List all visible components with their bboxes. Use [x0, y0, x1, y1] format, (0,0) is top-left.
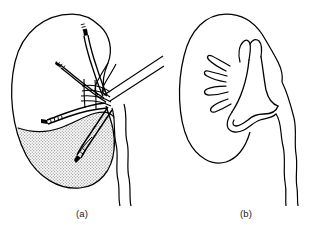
panel-a: (a) [0, 0, 164, 235]
stippled-inferior-segment [18, 112, 114, 188]
ureter-b [276, 82, 298, 206]
segmental-artery-mid-upper [55, 61, 106, 102]
caption-b: (b) [164, 208, 328, 220]
renal-artery-trunk [104, 56, 164, 101]
panel-b: (b) [164, 0, 328, 235]
kidney-outline-b [179, 14, 282, 163]
caption-a: (a) [0, 208, 164, 220]
figure-root: (a) [0, 0, 328, 235]
kidney-diagram-b [164, 0, 328, 208]
ureter-a [112, 104, 131, 206]
kidney-diagram-a [0, 0, 164, 208]
renal-pelvis [227, 57, 278, 132]
minor-calyces [204, 40, 261, 113]
